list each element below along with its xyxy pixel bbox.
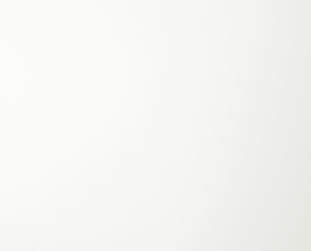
slice-label-african-american-percent: 30% [128, 68, 201, 79]
slice-label-south-central-asian-line2: Asian [38, 115, 98, 126]
slice-label-arab-name: Arab [146, 152, 166, 163]
slice-label-arab: Arab 25% [146, 152, 166, 175]
slice-label-other-percent: 5% [257, 133, 281, 144]
slice-label-south-central-asian: South-Central Asian 33% [38, 104, 98, 138]
slice-label-other: Other 5% [257, 122, 281, 145]
slice-label-other-name: Other [257, 122, 281, 133]
slice-label-european-name: European [249, 85, 291, 96]
slice-label-southeast-asian-percent: 2% [2, 17, 72, 28]
slice-label-south-central-asian-percent: 33% [38, 127, 98, 138]
slice-label-european-percent: 2% [249, 96, 291, 107]
slice-label-african-percent: 3% [36, 225, 66, 236]
slice-label-african-name: African [36, 214, 66, 225]
slice-label-southeast-asian: Southeast Asian 2% [2, 6, 72, 29]
slice-label-southeast-asian-name: Southeast Asian [2, 6, 72, 17]
slice-label-arab-percent: 25% [146, 163, 166, 174]
slice-label-african-american-name: African American [128, 57, 201, 68]
slice-label-african: African 3% [36, 214, 66, 237]
pie-chart-figure: Southeast Asian 2% African American 30% … [0, 0, 311, 251]
slice-label-african-american: African American 30% [128, 57, 201, 80]
slice-label-european: European 2% [249, 85, 291, 108]
slice-label-south-central-asian-line1: South-Central [38, 104, 98, 115]
